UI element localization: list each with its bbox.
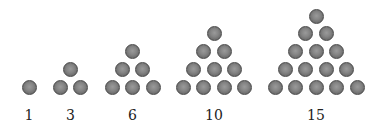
ball (237, 80, 252, 95)
ball (298, 26, 313, 41)
ball (227, 62, 242, 77)
ball (298, 62, 313, 77)
ball (53, 80, 68, 95)
ball (186, 62, 201, 77)
ball (319, 62, 334, 77)
ball (350, 80, 365, 95)
ball (22, 80, 37, 95)
group-label: 15 (307, 107, 325, 123)
group-label: 1 (25, 107, 34, 123)
ball (135, 62, 150, 77)
ball (217, 44, 232, 59)
ball (288, 80, 303, 95)
ball (196, 44, 211, 59)
ball (196, 80, 211, 95)
group-label: 10 (205, 107, 223, 123)
ball (278, 62, 293, 77)
ball (288, 44, 303, 59)
ball (207, 26, 222, 41)
ball (217, 80, 232, 95)
ball (125, 44, 140, 59)
ball (309, 44, 324, 59)
ball (309, 9, 324, 24)
ball (319, 26, 334, 41)
group-label: 6 (128, 107, 137, 123)
ball (63, 62, 78, 77)
ball (329, 80, 344, 95)
ball (207, 62, 222, 77)
ball (73, 80, 88, 95)
ball (176, 80, 191, 95)
triangular-numbers-diagram: 1 3 6 10 15 (0, 0, 383, 131)
ball (339, 62, 354, 77)
ball (309, 80, 324, 95)
ball (105, 80, 120, 95)
group-label: 3 (66, 107, 75, 123)
ball (115, 62, 130, 77)
ball (146, 80, 161, 95)
ball (268, 80, 283, 95)
ball (125, 80, 140, 95)
ball (329, 44, 344, 59)
